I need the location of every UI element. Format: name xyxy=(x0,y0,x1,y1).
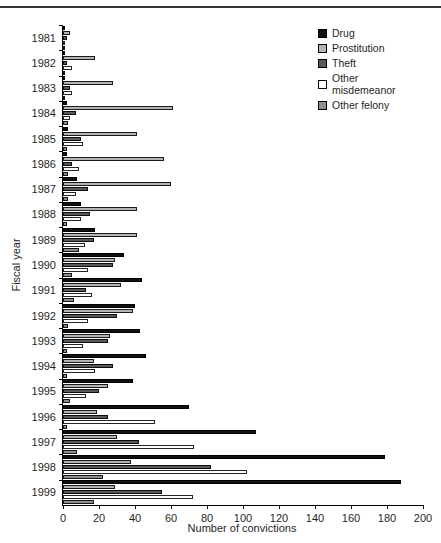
year-group-1996 xyxy=(63,404,423,429)
bar-1992-other-misdemeanor xyxy=(63,319,88,323)
year-group-1984 xyxy=(63,101,423,126)
x-axis-tick xyxy=(99,505,100,509)
bar-1983-prostitution xyxy=(63,81,113,85)
bar-1991-drug xyxy=(63,278,142,282)
bar-1989-drug xyxy=(63,228,95,232)
bar-1999-theft xyxy=(63,490,162,494)
bar-1996-prostitution xyxy=(63,410,97,414)
year-group-1992 xyxy=(63,303,423,328)
bar-1990-theft xyxy=(63,263,113,267)
bar-1986-other-misdemeanor xyxy=(63,167,79,171)
bar-1997-theft xyxy=(63,440,139,444)
x-axis-tick xyxy=(243,505,244,509)
year-label-1988: 1988 xyxy=(32,208,56,220)
bar-1985-other-misdemeanor xyxy=(63,142,83,146)
year-label-1997: 1997 xyxy=(32,436,56,448)
y-axis-tick xyxy=(59,227,63,228)
figure-page: Fiscal year DrugProstitutionTheftOther m… xyxy=(0,0,441,543)
bar-1987-other-felony xyxy=(63,197,68,201)
bar-1989-theft xyxy=(63,238,94,242)
x-axis-tick xyxy=(135,505,136,509)
year-group-1987 xyxy=(63,177,423,202)
plot-area: DrugProstitutionTheftOther misdemeanorOt… xyxy=(62,25,423,506)
bar-1988-drug xyxy=(63,202,81,206)
year-group-1983 xyxy=(63,76,423,101)
bar-1998-theft xyxy=(63,465,211,469)
bar-1996-other-misdemeanor xyxy=(63,420,155,424)
y-axis-tick xyxy=(59,177,63,178)
y-axis-title: Fiscal year xyxy=(10,238,22,291)
year-group-1990 xyxy=(63,252,423,277)
bar-1983-theft xyxy=(63,86,70,90)
year-group-1986 xyxy=(63,151,423,176)
bar-1999-prostitution xyxy=(63,485,115,489)
year-label-1983: 1983 xyxy=(32,82,56,94)
bar-1986-theft xyxy=(63,162,72,166)
bar-1995-other-felony xyxy=(63,399,70,403)
bar-1993-prostitution xyxy=(63,334,110,338)
y-axis-tick xyxy=(59,126,63,127)
y-axis-tick xyxy=(59,328,63,329)
y-axis-tick xyxy=(59,278,63,279)
bar-1988-theft xyxy=(63,212,90,216)
bar-1983-other-misdemeanor xyxy=(63,91,72,95)
bar-1987-other-misdemeanor xyxy=(63,192,76,196)
bar-1986-other-felony xyxy=(63,172,68,176)
y-axis-tick xyxy=(59,454,63,455)
year-label-1985: 1985 xyxy=(32,133,56,145)
year-label-1981: 1981 xyxy=(32,32,56,44)
x-axis-tick xyxy=(423,505,424,509)
year-group-1995 xyxy=(63,379,423,404)
bar-1991-other-felony xyxy=(63,298,74,302)
bar-1995-other-misdemeanor xyxy=(63,394,86,398)
bar-1983-drug xyxy=(63,76,65,80)
bar-1984-drug xyxy=(63,101,67,105)
bar-1998-prostitution xyxy=(63,460,131,464)
bar-1981-drug xyxy=(63,26,65,30)
bar-1998-other-felony xyxy=(63,475,103,479)
bar-1988-prostitution xyxy=(63,207,137,211)
year-group-1999 xyxy=(63,480,423,505)
year-group-1998 xyxy=(63,454,423,479)
bar-1996-drug xyxy=(63,405,189,409)
year-label-1982: 1982 xyxy=(32,57,56,69)
bar-1984-prostitution xyxy=(63,106,173,110)
bar-1987-theft xyxy=(63,187,88,191)
y-axis-tick xyxy=(59,76,63,77)
year-label-1990: 1990 xyxy=(32,259,56,271)
bar-1998-drug xyxy=(63,455,385,459)
bar-1997-other-felony xyxy=(63,450,77,454)
bar-1981-prostitution xyxy=(63,31,70,35)
y-axis-tick xyxy=(59,379,63,380)
bar-1981-other-felony xyxy=(63,46,65,50)
bar-1999-other-misdemeanor xyxy=(63,495,193,499)
year-label-1993: 1993 xyxy=(32,335,56,347)
y-axis-tick xyxy=(59,252,63,253)
bar-1990-prostitution xyxy=(63,258,115,262)
bar-1996-theft xyxy=(63,415,108,419)
bar-1995-drug xyxy=(63,379,133,383)
x-axis-tick xyxy=(315,505,316,509)
y-axis-tick xyxy=(59,429,63,430)
year-group-1982 xyxy=(63,50,423,75)
bar-1990-other-misdemeanor xyxy=(63,268,88,272)
bar-1984-other-misdemeanor xyxy=(63,116,70,120)
y-axis-tick xyxy=(59,151,63,152)
bar-1991-prostitution xyxy=(63,283,121,287)
year-label-1987: 1987 xyxy=(32,183,56,195)
bar-1989-prostitution xyxy=(63,233,137,237)
bar-1986-drug xyxy=(63,152,67,156)
bar-1985-drug xyxy=(63,127,68,131)
bar-1982-drug xyxy=(63,51,65,55)
bar-1988-other-misdemeanor xyxy=(63,217,81,221)
year-label-1999: 1999 xyxy=(32,486,56,498)
bar-1988-other-felony xyxy=(63,222,67,226)
bar-1982-other-felony xyxy=(63,71,65,75)
bar-1992-prostitution xyxy=(63,309,133,313)
bar-1993-drug xyxy=(63,329,140,333)
y-axis-tick xyxy=(59,303,63,304)
year-group-1981 xyxy=(63,25,423,50)
bar-1992-theft xyxy=(63,314,117,318)
bar-1995-prostitution xyxy=(63,384,108,388)
x-axis-tick xyxy=(207,505,208,509)
